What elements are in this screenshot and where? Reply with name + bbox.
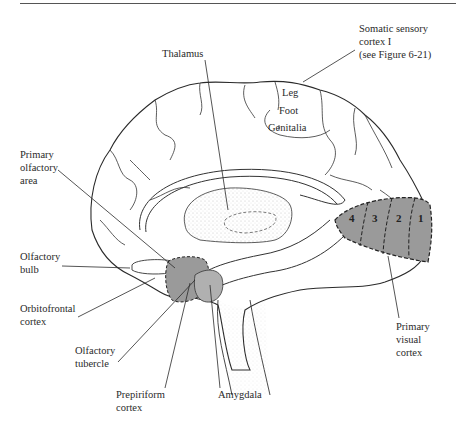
label-olfactory-bulb: Olfactory bulb	[20, 250, 60, 276]
label-line: cortex	[20, 315, 75, 328]
label-leg: Leg	[282, 86, 298, 99]
brain-diagram	[0, 0, 456, 426]
label-line: olfactory	[20, 161, 58, 174]
label-olfactory-tubercle: Olfactory tubercle	[75, 344, 115, 370]
label-amygdala: Amygdala	[218, 388, 262, 401]
visual-area-4: 4	[349, 212, 355, 224]
label-orbitofrontal-cortex: Orbitofrontal cortex	[20, 302, 75, 328]
label-primary-visual-cortex: Primary visual cortex	[396, 320, 430, 359]
label-line: Primary	[396, 320, 430, 333]
label-line: Somatic sensory	[359, 22, 431, 35]
label-thalamus: Thalamus	[162, 47, 203, 60]
label-foot: Foot	[279, 104, 298, 117]
label-line: cortex	[396, 346, 430, 359]
label-line: tubercle	[75, 357, 115, 370]
visual-area-3: 3	[372, 212, 378, 224]
label-line: Amygdala	[218, 388, 262, 401]
label-line: (see Figure 6-21)	[359, 48, 431, 61]
label-line: Primary	[20, 148, 58, 161]
label-line: visual	[396, 333, 430, 346]
visual-area-2: 2	[396, 212, 402, 224]
label-prepiriform-cortex: Prepiriform cortex	[116, 388, 165, 414]
label-line: Prepiriform	[116, 388, 165, 401]
label-line: Thalamus	[162, 47, 203, 60]
label-line: Olfactory	[20, 250, 60, 263]
label-line: Olfactory	[75, 344, 115, 357]
label-line: area	[20, 174, 58, 187]
amygdala-region	[194, 270, 223, 302]
label-line: Orbitofrontal	[20, 302, 75, 315]
label-line: cortex I	[359, 35, 431, 48]
thalamus-region	[184, 188, 292, 243]
visual-area-1: 1	[418, 212, 424, 224]
label-line: bulb	[20, 263, 60, 276]
label-genitalia: Genitalia	[268, 121, 306, 134]
label-line: cortex	[116, 401, 165, 414]
label-somatic-sensory-cortex: Somatic sensory cortex I (see Figure 6-2…	[359, 22, 431, 61]
label-primary-olfactory-area: Primary olfactory area	[20, 148, 58, 187]
